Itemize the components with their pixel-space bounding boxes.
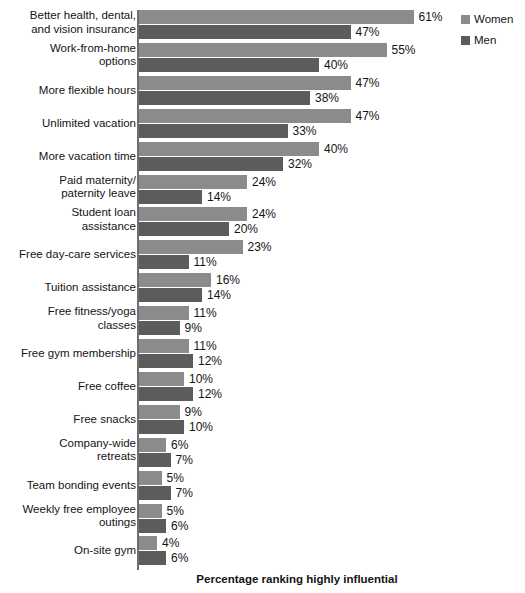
chart-row: Unlimited vacation47%33%	[0, 109, 525, 142]
chart-row: Free day-care services23%11%	[0, 240, 525, 273]
bar-value-women: 11%	[194, 306, 217, 320]
bar-women[interactable]	[139, 405, 180, 419]
bar-women[interactable]	[139, 273, 211, 287]
bar-value-women: 47%	[356, 109, 380, 123]
chart-row: Free snacks9%10%	[0, 405, 525, 438]
chart-row: Team bonding events5%7%	[0, 471, 525, 504]
bar-men[interactable]	[139, 91, 310, 105]
bar-value-men: 11%	[194, 255, 217, 269]
chart-row: Tuition assistance16%14%	[0, 273, 525, 306]
bar-men[interactable]	[139, 288, 202, 302]
bar-women[interactable]	[139, 471, 162, 485]
category-label: Company-wide retreats	[0, 437, 136, 464]
category-label: Student loan assistance	[0, 206, 136, 233]
bar-men[interactable]	[139, 420, 184, 434]
bar-value-women: 10%	[189, 372, 213, 386]
bar-value-women: 6%	[171, 438, 188, 452]
bar-value-men: 47%	[356, 25, 380, 39]
chart-row: Weekly free employee outings5%6%	[0, 504, 525, 537]
bar-chart: Better health, dental, and vision insura…	[0, 0, 525, 593]
bar-women[interactable]	[139, 175, 247, 189]
bar-men[interactable]	[139, 157, 283, 171]
bar-women[interactable]	[139, 43, 387, 57]
bar-value-men: 10%	[189, 420, 213, 434]
category-label: Paid maternity/ paternity leave	[0, 174, 136, 201]
bar-value-women: 55%	[392, 43, 416, 57]
bar-men[interactable]	[139, 58, 319, 72]
bar-value-women: 5%	[167, 504, 184, 518]
bar-value-men: 12%	[198, 387, 222, 401]
category-label: Work-from-home options	[0, 42, 136, 69]
bar-value-women: 24%	[252, 207, 276, 221]
bar-men[interactable]	[139, 551, 166, 565]
chart-row: Paid maternity/ paternity leave24%14%	[0, 175, 525, 208]
category-label: Free gym membership	[0, 347, 136, 361]
bar-men[interactable]	[139, 453, 171, 467]
category-label: Better health, dental, and vision insura…	[0, 9, 136, 36]
bar-women[interactable]	[139, 142, 319, 156]
bar-women[interactable]	[139, 306, 189, 320]
bar-value-women: 11%	[194, 339, 217, 353]
bar-women[interactable]	[139, 109, 351, 123]
category-label: More flexible hours	[0, 84, 136, 98]
bar-men[interactable]	[139, 255, 189, 269]
bar-women[interactable]	[139, 10, 414, 24]
category-label: Free coffee	[0, 380, 136, 394]
bar-value-men: 40%	[324, 58, 348, 72]
bar-women[interactable]	[139, 76, 351, 90]
category-label: Weekly free employee outings	[0, 503, 136, 530]
bar-value-women: 16%	[216, 273, 240, 287]
bar-value-men: 32%	[288, 157, 312, 171]
chart-row: More flexible hours47%38%	[0, 76, 525, 109]
category-label: Team bonding events	[0, 479, 136, 493]
bar-women[interactable]	[139, 240, 243, 254]
bar-value-men: 14%	[207, 190, 231, 204]
legend-swatch-men-icon	[461, 36, 470, 45]
legend-label-women: Women	[474, 13, 513, 26]
bar-value-women: 23%	[248, 240, 272, 254]
bar-women[interactable]	[139, 339, 189, 353]
chart-row: Better health, dental, and vision insura…	[0, 10, 525, 43]
bar-men[interactable]	[139, 124, 288, 138]
chart-row: Work-from-home options55%40%	[0, 43, 525, 76]
category-label: Tuition assistance	[0, 281, 136, 295]
bar-men[interactable]	[139, 486, 171, 500]
chart-row: Company-wide retreats6%7%	[0, 438, 525, 471]
bar-women[interactable]	[139, 504, 162, 518]
category-label: Free day-care services	[0, 248, 136, 262]
category-label: Free fitness/yoga classes	[0, 305, 136, 332]
bar-value-women: 47%	[356, 76, 380, 90]
category-label: More vacation time	[0, 150, 136, 164]
category-label: On-site gym	[0, 544, 136, 558]
bar-men[interactable]	[139, 519, 166, 533]
bar-value-men: 7%	[176, 453, 193, 467]
bar-value-men: 6%	[171, 551, 188, 565]
bar-value-men: 38%	[315, 91, 339, 105]
x-axis-title: Percentage ranking highly influential	[137, 573, 457, 585]
legend-swatch-women-icon	[461, 15, 470, 24]
chart-row: On-site gym4%6%	[0, 536, 525, 569]
chart-row: Student loan assistance24%20%	[0, 207, 525, 240]
bar-men[interactable]	[139, 387, 193, 401]
bar-men[interactable]	[139, 321, 180, 335]
chart-row: Free coffee10%12%	[0, 372, 525, 405]
bar-value-men: 33%	[293, 124, 317, 138]
bar-value-women: 4%	[162, 536, 179, 550]
bar-value-women: 40%	[324, 142, 348, 156]
bar-value-men: 6%	[171, 519, 188, 533]
bar-women[interactable]	[139, 372, 184, 386]
bar-value-men: 20%	[234, 222, 258, 236]
bar-women[interactable]	[139, 207, 247, 221]
bar-women[interactable]	[139, 438, 166, 452]
bar-value-men: 14%	[207, 288, 231, 302]
chart-row: More vacation time40%32%	[0, 142, 525, 175]
bar-women[interactable]	[139, 536, 157, 550]
bar-men[interactable]	[139, 190, 202, 204]
legend-label-men: Men	[474, 34, 496, 47]
bar-value-men: 9%	[185, 321, 202, 335]
bar-value-women: 24%	[252, 175, 276, 189]
bar-value-women: 61%	[419, 10, 443, 24]
bar-men[interactable]	[139, 354, 193, 368]
bar-men[interactable]	[139, 222, 229, 236]
bar-men[interactable]	[139, 25, 351, 39]
